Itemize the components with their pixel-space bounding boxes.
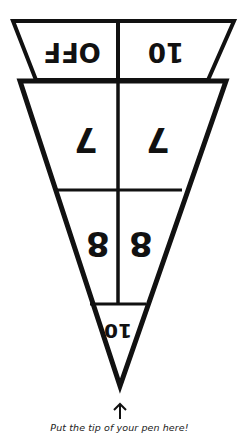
middle-left-label: 8 (86, 224, 110, 264)
pen-tip-caption: Put the tip of your pen here! (0, 422, 239, 433)
upper-left-label: 7 (74, 120, 98, 160)
upper-right-label: 7 (146, 120, 170, 160)
pen-wheel-diagram: OFF 10 7 7 8 8 10 (0, 0, 239, 446)
top-left-label: OFF (43, 37, 101, 67)
top-band: OFF 10 (13, 21, 234, 80)
up-arrow-icon (112, 402, 128, 420)
tip-section: 10 (104, 319, 132, 343)
tip-label: 10 (104, 319, 132, 343)
middle-right-label: 8 (129, 224, 153, 264)
top-right-label: 10 (148, 37, 184, 67)
